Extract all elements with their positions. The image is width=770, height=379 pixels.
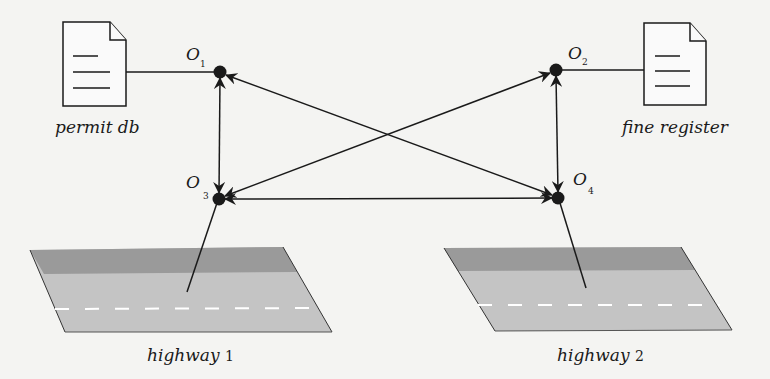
svg-text:4: 4	[588, 186, 594, 196]
highway-2-shoulder	[444, 247, 695, 271]
svg-text:highway 2: highway 2	[557, 345, 644, 365]
edge-o2-o4	[556, 76, 558, 192]
highway-1-label: highway 1	[147, 345, 234, 365]
node-o2-label: O 2	[568, 43, 588, 67]
highway-2	[444, 247, 732, 331]
fine-register-document-icon	[644, 23, 706, 105]
node-o4-label: O 4	[573, 169, 594, 196]
permit-db-document-icon	[63, 22, 126, 106]
fine-register-label: fine register	[620, 117, 729, 137]
svg-text:O: O	[568, 43, 582, 63]
edge-o1-o3	[219, 78, 220, 193]
svg-text:O: O	[186, 172, 200, 192]
highway-1-shoulder	[30, 247, 297, 274]
svg-text:highway 1: highway 1	[147, 345, 234, 365]
node-o1-label: O 1	[186, 44, 206, 69]
svg-text:1: 1	[200, 59, 206, 69]
highway-2-label: highway 2	[557, 345, 644, 365]
node-o1	[214, 66, 227, 79]
svg-text:O: O	[573, 169, 587, 189]
highway-1-lane-marking	[55, 308, 318, 309]
svg-text:O: O	[186, 44, 200, 64]
highway-1	[30, 247, 332, 332]
svg-text:3: 3	[203, 191, 209, 201]
edge-o3-o2	[225, 73, 550, 196]
node-o3-label: O 3	[186, 172, 209, 201]
edges	[219, 73, 558, 199]
edge-o3-o4	[225, 198, 552, 199]
diagram-canvas: permit db fine register O 1 O 2 O 3 O 4	[0, 0, 770, 379]
node-o2	[550, 64, 563, 77]
node-o4	[552, 192, 565, 205]
permit-db-label: permit db	[55, 117, 140, 137]
svg-text:2: 2	[582, 57, 588, 67]
node-o3	[213, 193, 226, 206]
